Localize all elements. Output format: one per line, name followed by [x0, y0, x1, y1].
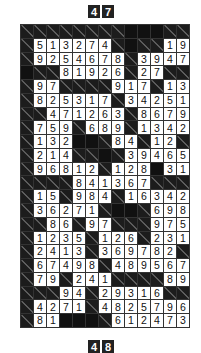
answer-cell[interactable]: 4 [73, 53, 85, 66]
answer-cell[interactable]: 1 [60, 245, 72, 258]
answer-cell[interactable]: 1 [125, 190, 137, 203]
answer-cell[interactable]: 7 [73, 204, 85, 217]
answer-cell[interactable]: 7 [99, 53, 111, 66]
answer-cell[interactable]: 3 [125, 94, 137, 107]
answer-cell[interactable]: 4 [99, 39, 111, 52]
answer-cell[interactable]: 1 [125, 314, 137, 327]
answer-cell[interactable]: 1 [151, 135, 163, 148]
answer-cell[interactable]: 2 [60, 135, 72, 148]
answer-cell[interactable]: 7 [99, 94, 111, 107]
answer-cell[interactable]: 3 [177, 314, 189, 327]
answer-cell[interactable]: 3 [99, 245, 111, 258]
answer-cell[interactable]: 8 [47, 218, 59, 231]
answer-cell[interactable]: 9 [177, 273, 189, 286]
answer-cell[interactable]: 9 [86, 66, 98, 79]
answer-cell[interactable]: 6 [60, 218, 72, 231]
answer-cell[interactable]: 9 [34, 53, 46, 66]
answer-cell[interactable]: 7 [138, 176, 150, 189]
answer-cell[interactable]: 9 [47, 273, 59, 286]
answer-cell[interactable]: 1 [34, 135, 46, 148]
answer-cell[interactable]: 9 [138, 149, 150, 162]
answer-cell[interactable]: 1 [86, 94, 98, 107]
answer-cell[interactable]: 1 [177, 163, 189, 176]
answer-cell[interactable]: 4 [47, 108, 59, 121]
answer-cell[interactable]: 4 [47, 245, 59, 258]
answer-cell[interactable]: 4 [73, 287, 85, 300]
answer-cell[interactable]: 2 [47, 300, 59, 313]
answer-cell[interactable]: 1 [34, 232, 46, 245]
answer-cell[interactable]: 1 [73, 108, 85, 121]
answer-cell[interactable]: 6 [151, 204, 163, 217]
answer-cell[interactable]: 4 [151, 314, 163, 327]
answer-cell[interactable]: 7 [34, 121, 46, 134]
answer-cell[interactable]: 1 [47, 314, 59, 327]
answer-cell[interactable]: 8 [138, 163, 150, 176]
answer-cell[interactable]: 8 [60, 163, 72, 176]
answer-cell[interactable]: 6 [164, 259, 176, 272]
answer-cell[interactable]: 8 [125, 259, 137, 272]
answer-cell[interactable]: 3 [138, 53, 150, 66]
answer-cell[interactable]: 3 [151, 190, 163, 203]
answer-cell[interactable]: 2 [60, 204, 72, 217]
answer-cell[interactable]: 6 [86, 53, 98, 66]
answer-cell[interactable]: 4 [125, 135, 137, 148]
answer-cell[interactable]: 2 [34, 149, 46, 162]
answer-cell[interactable]: 2 [138, 66, 150, 79]
answer-cell[interactable]: 6 [151, 108, 163, 121]
answer-cell[interactable]: 9 [151, 53, 163, 66]
answer-cell[interactable]: 9 [34, 80, 46, 93]
answer-cell[interactable]: 4 [34, 300, 46, 313]
answer-cell[interactable]: 9 [177, 108, 189, 121]
answer-cell[interactable]: 3 [112, 108, 124, 121]
answer-cell[interactable]: 7 [60, 108, 72, 121]
answer-cell[interactable]: 3 [47, 135, 59, 148]
answer-cell[interactable]: 8 [164, 273, 176, 286]
answer-cell[interactable]: 4 [60, 259, 72, 272]
answer-cell[interactable]: 4 [151, 149, 163, 162]
answer-cell[interactable]: 6 [47, 163, 59, 176]
answer-cell[interactable]: 7 [47, 80, 59, 93]
answer-cell[interactable]: 7 [138, 80, 150, 93]
answer-cell[interactable]: 2 [73, 39, 85, 52]
answer-cell[interactable]: 3 [177, 80, 189, 93]
answer-cell[interactable]: 7 [138, 245, 150, 258]
answer-cell[interactable]: 2 [138, 314, 150, 327]
answer-cell[interactable]: 1 [99, 273, 111, 286]
answer-cell[interactable]: 1 [177, 94, 189, 107]
answer-cell[interactable]: 2 [164, 245, 176, 258]
answer-cell[interactable]: 2 [47, 232, 59, 245]
answer-cell[interactable]: 3 [112, 176, 124, 189]
answer-cell[interactable]: 2 [151, 94, 163, 107]
answer-cell[interactable]: 8 [151, 245, 163, 258]
answer-cell[interactable]: 2 [99, 287, 111, 300]
answer-cell[interactable]: 1 [86, 204, 98, 217]
answer-cell[interactable]: 4 [164, 190, 176, 203]
answer-cell[interactable]: 8 [112, 135, 124, 148]
answer-cell[interactable]: 2 [177, 121, 189, 134]
answer-cell[interactable]: 9 [73, 259, 85, 272]
answer-cell[interactable]: 4 [60, 149, 72, 162]
answer-cell[interactable]: 8 [60, 66, 72, 79]
answer-cell[interactable]: 7 [99, 218, 111, 231]
answer-cell[interactable]: 1 [47, 39, 59, 52]
answer-cell[interactable]: 2 [73, 273, 85, 286]
answer-cell[interactable]: 8 [34, 314, 46, 327]
answer-cell[interactable]: 9 [60, 121, 72, 134]
answer-cell[interactable]: 9 [125, 245, 137, 258]
answer-cell[interactable]: 2 [47, 53, 59, 66]
answer-cell[interactable]: 4 [99, 190, 111, 203]
answer-cell[interactable]: 7 [177, 53, 189, 66]
answer-cell[interactable]: 7 [60, 300, 72, 313]
answer-cell[interactable]: 3 [34, 204, 46, 217]
answer-cell[interactable]: 8 [34, 94, 46, 107]
answer-cell[interactable]: 1 [164, 80, 176, 93]
answer-cell[interactable]: 8 [86, 190, 98, 203]
answer-cell[interactable]: 1 [125, 80, 137, 93]
answer-cell[interactable]: 6 [177, 300, 189, 313]
answer-cell[interactable]: 6 [164, 149, 176, 162]
answer-cell[interactable]: 9 [86, 218, 98, 231]
answer-cell[interactable]: 3 [73, 245, 85, 258]
answer-cell[interactable]: 3 [60, 39, 72, 52]
answer-cell[interactable]: 9 [177, 39, 189, 52]
answer-cell[interactable]: 8 [138, 108, 150, 121]
